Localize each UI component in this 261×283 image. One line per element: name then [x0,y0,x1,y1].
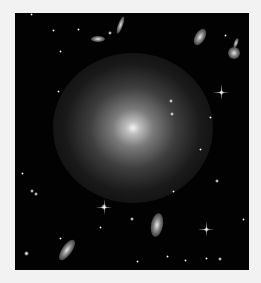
star [34,192,38,196]
star [209,116,212,119]
star [172,190,175,193]
star [59,237,62,240]
background-galaxy [115,16,126,35]
background-galaxy [228,47,240,59]
star [242,218,245,221]
diffraction-spike [206,221,207,237]
star [30,13,33,16]
star [57,90,60,93]
star [215,179,219,183]
diffraction-spike [104,199,105,215]
star [169,99,173,103]
star [99,226,102,229]
star [218,257,222,261]
star [108,31,112,35]
star [136,260,139,263]
star [184,259,187,262]
background-galaxy [149,212,165,238]
star [24,251,29,256]
galaxy-image [15,13,249,270]
star [21,172,24,175]
main-galaxy [53,53,213,203]
background-galaxy [56,237,78,262]
background-galaxy [232,38,239,49]
star [166,255,169,258]
star [199,148,202,151]
diffraction-spike [221,84,222,100]
star [170,112,174,116]
star [224,34,227,37]
background-galaxy [91,36,105,42]
star [77,28,80,31]
star [59,50,62,53]
star [130,217,134,221]
star [52,29,55,32]
star [205,257,208,260]
background-galaxy [191,27,209,48]
